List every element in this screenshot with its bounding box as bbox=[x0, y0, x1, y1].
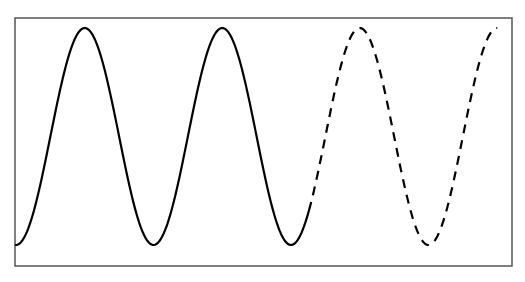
dashed-wave-line bbox=[309, 28, 497, 245]
solid-wave-line bbox=[16, 28, 309, 245]
wave-chart bbox=[0, 0, 525, 282]
plot-frame bbox=[15, 18, 512, 266]
